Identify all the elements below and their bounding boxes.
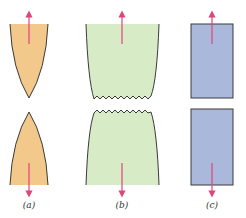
panel-label-c: (c) xyxy=(206,200,218,210)
panel-a xyxy=(10,14,48,194)
fracture-diagram xyxy=(0,0,246,218)
panel-b xyxy=(86,14,159,194)
panel-label-b: (b) xyxy=(116,200,129,210)
panel-label-a: (a) xyxy=(23,200,35,210)
panel-c xyxy=(191,14,233,194)
